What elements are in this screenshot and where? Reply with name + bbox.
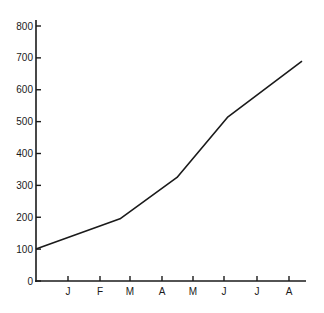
y-tick-label: 400 <box>16 148 33 159</box>
y-tick-label: 0 <box>27 276 33 287</box>
y-tick-label: 700 <box>16 52 33 63</box>
x-tick-label: A <box>286 286 293 297</box>
x-tick-label: J <box>255 286 260 297</box>
x-tick-label: F <box>97 286 103 297</box>
y-tick-label: 600 <box>16 84 33 95</box>
x-tick-label: A <box>159 286 166 297</box>
line-chart: 0100200300400500600700800 JFMAMJJA <box>0 0 324 313</box>
y-tick-label: 100 <box>16 244 33 255</box>
x-axis-ticks: JFMAMJJA <box>66 276 293 297</box>
y-tick-label: 800 <box>16 21 33 32</box>
x-tick-label: J <box>222 286 227 297</box>
y-axis-ticks: 0100200300400500600700800 <box>16 21 41 287</box>
y-tick-label: 300 <box>16 180 33 191</box>
y-tick-label: 500 <box>16 116 33 127</box>
x-tick-label: J <box>66 286 71 297</box>
y-tick-label: 200 <box>16 212 33 223</box>
x-tick-label: M <box>189 286 197 297</box>
data-line <box>36 61 302 249</box>
x-tick-label: M <box>126 286 134 297</box>
